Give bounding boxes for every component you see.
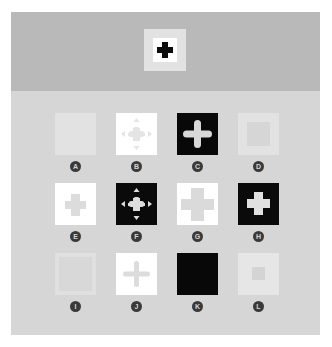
header-band [11,12,320,91]
icon-tile-h [238,183,279,225]
plus-with-arrows-icon [116,183,157,225]
plus-icon [238,183,279,225]
tile-label-badge: A [70,161,81,172]
icon-tile-k [177,253,218,295]
icon-tile-d [238,113,279,155]
inner-square-icon [238,113,279,155]
tile-label-badge: L [253,301,264,312]
header-icon-background [153,38,177,62]
tile-label-badge: K [192,301,203,312]
small-plus-icon [55,183,96,225]
tile-label-badge: I [70,301,81,312]
plus-with-arrows-icon [116,113,157,155]
tile-label-badge: F [131,231,142,242]
small-square-icon [238,253,279,295]
tile-label-badge: H [253,231,264,242]
tile-label-badge: B [131,161,142,172]
icon-tile-f [116,183,157,225]
icon-tile-c [177,113,218,155]
tile-label-badge: J [131,301,142,312]
tile-label-badge: E [70,231,81,242]
icon-tile-b [116,113,157,155]
tile-label-badge: D [253,161,264,172]
icon-tile-j [116,253,157,295]
large-plus-icon [177,183,218,225]
header-icon-frame [144,29,186,71]
icon-tile-e [55,183,96,225]
icon-tile-l [238,253,279,295]
tile-label-badge: C [192,161,203,172]
icon-tile-a [55,113,96,155]
inner-square-faint-icon [55,253,96,295]
plus-icon [153,38,177,62]
rounded-plus-icon [177,113,218,155]
thin-plus-icon [116,253,157,295]
icon-tile-i [55,253,96,295]
icon-tile-g [177,183,218,225]
tile-label-badge: G [192,231,203,242]
figure-panel: A BCDE FGHIJKL [11,12,320,335]
